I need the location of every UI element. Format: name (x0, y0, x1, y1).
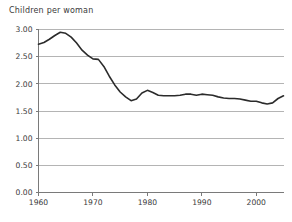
y-tick-label: 2.50 (16, 52, 33, 61)
x-tick-label: 1990 (192, 198, 211, 207)
y-tick-label: 1.50 (16, 107, 33, 116)
y-tick-label: 1.00 (16, 134, 33, 143)
y-tick-label: 0.00 (16, 188, 33, 197)
series-line-0 (39, 32, 284, 104)
y-tick-label: 2.00 (16, 80, 33, 89)
y-tick-label: 0.50 (16, 161, 33, 170)
x-tick-label: 1970 (83, 198, 102, 207)
x-tick-label: 1960 (29, 198, 48, 207)
x-tick-label: 1980 (138, 198, 157, 207)
series-group (39, 32, 284, 104)
x-tick-labels-group: 19601970198019902000 (29, 198, 266, 207)
fertility-rate-chart: Children per woman 0.000.501.001.502.002… (0, 0, 292, 222)
chart-plot-area: 0.000.501.001.502.002.503.00 19601970198… (0, 0, 292, 222)
gridlines-group (39, 30, 284, 166)
y-tick-label: 3.00 (16, 25, 33, 34)
y-tick-labels-group: 0.000.501.001.502.002.503.00 (16, 25, 33, 197)
x-tick-label: 2000 (247, 198, 266, 207)
tickmarks-group (36, 30, 257, 196)
